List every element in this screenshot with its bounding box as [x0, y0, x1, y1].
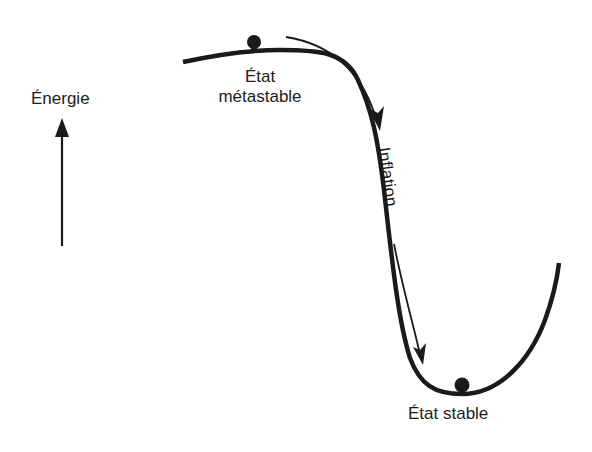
ball-stable-icon [455, 378, 470, 393]
stable-state-label: État stable [408, 404, 488, 424]
energy-axis-label: Énergie [31, 89, 90, 109]
energy-axis-arrow [55, 118, 69, 246]
metastable-label-line2: métastable [205, 87, 315, 107]
metastable-state-label: État métastable [205, 67, 315, 107]
metastable-label-line1: État [205, 67, 315, 87]
